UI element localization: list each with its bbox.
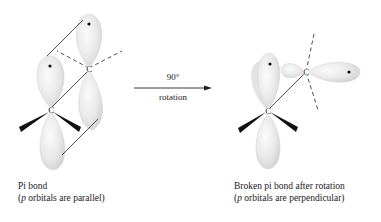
p-orbital-lobe (308, 62, 360, 82)
electron-dot (48, 64, 51, 67)
p-orbital-lobe (37, 56, 64, 108)
p-orbital-lobe (40, 112, 65, 170)
electron-dot (347, 70, 350, 73)
right-caption-subtitle: (p orbitals are perpendicular) (234, 192, 345, 204)
pi-overlap-line (62, 119, 98, 155)
arrow-bottom-label: rotation (138, 92, 208, 102)
p-orbital-lobe (256, 114, 280, 169)
carbon-atom-label: C (48, 105, 54, 115)
left-caption-title: Pi bond (18, 180, 105, 192)
rotation-arrow (134, 86, 212, 91)
left-caption: Pi bond (p orbitals are parallel) (18, 180, 105, 204)
right-structure: C C (238, 34, 360, 169)
right-caption: Broken pi bond after rotation (p orbital… (234, 180, 345, 204)
arrow-top-label: 90° (138, 72, 208, 82)
p-orbital-lobe (281, 64, 305, 78)
carbon-atom-label: C (265, 106, 271, 116)
electron-dot (268, 62, 271, 65)
arrowhead-icon (204, 86, 212, 91)
left-caption-subtitle: (p orbitals are parallel) (18, 192, 105, 204)
hashed-bond (306, 72, 318, 110)
electron-dot (87, 22, 90, 25)
carbon-atom-label: C (303, 67, 309, 77)
left-structure: C C (19, 14, 122, 170)
p-orbital-lobe (76, 14, 102, 68)
p-orbital-lobe (79, 70, 103, 130)
right-caption-title: Broken pi bond after rotation (234, 180, 345, 192)
carbon-atom-label: C (86, 64, 92, 74)
